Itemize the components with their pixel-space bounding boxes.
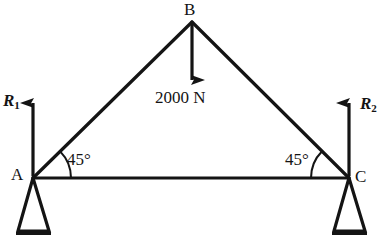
- angle-arc-C: [311, 151, 322, 178]
- reaction-label-R2: R2: [360, 95, 377, 112]
- load-label-2000N: 2000 N: [155, 89, 206, 106]
- reaction-symbol-R1: R: [3, 91, 14, 110]
- angle-label-A: 45°: [67, 151, 91, 168]
- node-label-A: A: [11, 166, 23, 183]
- reaction-symbol-R2: R: [360, 94, 371, 113]
- support-C-pin: [332, 178, 367, 234]
- truss-diagram-svg: [0, 0, 384, 244]
- reaction-subscript-R2: 2: [371, 102, 377, 114]
- angle-arcs: [60, 151, 322, 178]
- diagram-canvas: B A C 45° 45° 2000 N R1 R2: [0, 0, 384, 244]
- node-label-C: C: [355, 168, 366, 185]
- reaction-subscript-R1: 1: [14, 99, 20, 111]
- angle-label-C: 45°: [285, 151, 309, 168]
- node-label-B: B: [184, 1, 195, 18]
- reaction-label-R1: R1: [3, 92, 20, 109]
- member-BC: [192, 22, 349, 178]
- support-A-pin: [16, 178, 51, 234]
